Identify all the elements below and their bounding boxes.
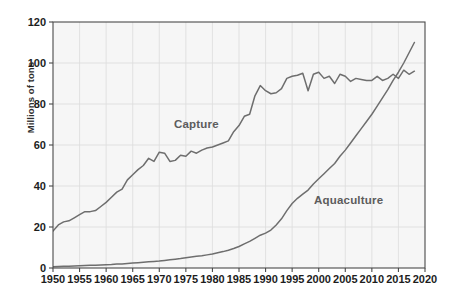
x-tick-label: 2020: [405, 274, 445, 285]
series-label-capture: Capture: [174, 118, 219, 130]
series-label-aquaculture: Aquaculture: [314, 194, 383, 206]
line-chart: Millions of tons 120100806040200 1950195…: [0, 0, 449, 298]
x-axis-tick-labels: 1950195519601965197019751980198519901995…: [0, 0, 449, 298]
